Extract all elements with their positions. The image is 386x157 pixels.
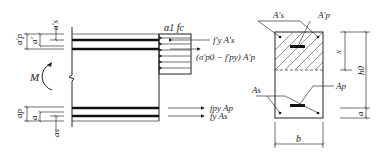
moment-label: M [29,71,40,83]
prestressed-beam-diagram: M a'p a' a's ap a as α1 fc [0,0,386,157]
svg-text:A's: A's [272,10,284,20]
width-dimension: b [275,122,323,148]
svg-text:Ap: Ap [335,81,346,91]
top-dimensions: a'p a' a's [14,20,64,49]
svg-text:f'y A's: f'y A's [213,35,235,45]
dim-a-prime-p: a'p [14,34,24,45]
concrete-stress-block: α1 fc [159,22,191,74]
svg-text:A'p: A'p [317,10,330,20]
bottom-dimensions: ap a as [14,107,64,137]
dim-a-prime-s: a's [50,20,60,30]
force-concrete-label: α1 fc [164,22,185,33]
svg-text:As: As [251,85,261,95]
top-prestress-tendon [290,45,305,48]
cross-section: A's A'p As Ap [245,10,355,118]
top-steel-force: f'y A's [172,35,235,45]
dim-a: a [29,115,39,120]
dim-a-s: as [51,129,61,138]
svg-text:b: b [296,133,301,144]
top-prestress-force: (σ'p0 − f'py) A'p [170,49,256,62]
svg-text:a: a [355,111,365,116]
moment-arrow-icon: M [29,62,52,90]
svg-text:x: x [333,50,343,55]
depth-dimensions: x h0 a [333,32,370,118]
compression-zone-hatch [245,30,355,80]
svg-text:(σ'p0 − f'py) A'p: (σ'p0 − f'py) A'p [196,52,256,62]
svg-text:fy As: fy As [210,111,228,121]
dim-a-p: ap [14,109,24,119]
svg-text:h0: h0 [356,66,366,76]
dim-a-prime: a' [29,37,39,45]
beam-elevation [69,27,159,127]
bottom-steel-force: fy As [168,111,228,121]
